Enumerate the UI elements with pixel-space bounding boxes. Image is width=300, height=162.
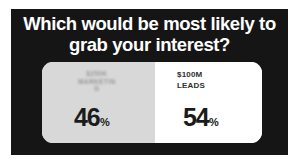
poll-option-right-label: $100M LEADS	[177, 70, 205, 91]
poll-question-line-1: Which would be most likely to	[11, 13, 288, 34]
poll-option-left-percent-sign: %	[100, 116, 110, 128]
poll-option-right-percent-sign: %	[209, 116, 219, 128]
poll-option-left-percent-value: 46	[74, 103, 99, 131]
poll-options: $250K MARKETIN G 46% $100M LEADS 54%	[42, 62, 262, 143]
poll-option-right[interactable]: $100M LEADS 54%	[155, 62, 262, 143]
poll-option-left[interactable]: $250K MARKETIN G 46%	[42, 62, 155, 143]
poll-option-right-percent: 54%	[183, 105, 219, 135]
poll-option-left-percent: 46%	[74, 105, 110, 135]
poll-option-right-percent-value: 54	[183, 103, 208, 131]
poll-question-line-2: grab your interest?	[11, 34, 288, 55]
poll-option-left-label: $250K MARKETIN G	[78, 70, 116, 93]
poll-question: Which would be most likely to grab your …	[11, 13, 288, 55]
poll-panel: Which would be most likely to grab your …	[11, 9, 288, 155]
